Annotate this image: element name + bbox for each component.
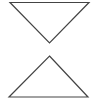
triangle-down-outline-icon <box>0 0 92 50</box>
triangle-up-outline-icon <box>0 50 92 105</box>
sort-descending-button[interactable] <box>0 0 92 50</box>
sort-ascending-button[interactable] <box>0 50 92 105</box>
sort-arrows-control <box>0 0 92 105</box>
